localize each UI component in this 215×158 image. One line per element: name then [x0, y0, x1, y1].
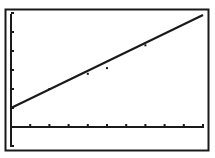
calculator-graph-screen: [0, 0, 215, 158]
data-point: [87, 73, 89, 75]
data-point: [48, 88, 50, 90]
y-tick: [11, 12, 14, 14]
y-tick: [11, 50, 14, 52]
x-tick: [164, 124, 166, 127]
x-tick: [48, 124, 50, 127]
x-tick: [144, 124, 146, 127]
x-tick: [106, 124, 108, 127]
data-point: [144, 44, 146, 46]
y-tick: [11, 88, 14, 90]
y-tick: [11, 31, 14, 33]
y-tick: [11, 69, 14, 71]
x-tick: [87, 124, 89, 127]
x-tick: [125, 124, 127, 127]
x-tick: [29, 124, 31, 127]
x-tick: [202, 124, 204, 127]
plot-area: [11, 15, 203, 108]
x-tick: [68, 124, 70, 127]
data-point: [106, 67, 108, 69]
regression-line: [11, 15, 203, 108]
outer-frame: [6, 10, 209, 151]
x-tick: [183, 124, 185, 127]
y-tick: [11, 145, 14, 147]
